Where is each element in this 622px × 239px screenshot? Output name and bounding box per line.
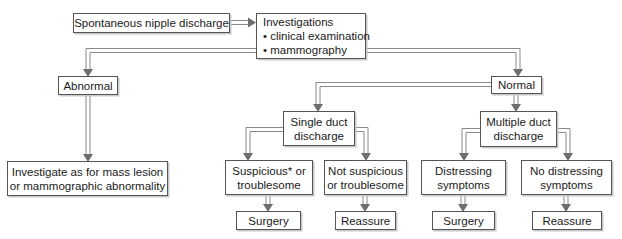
node-label-line-1: Not suspicious bbox=[328, 164, 403, 178]
node-surgery-multiple-duct: Surgery bbox=[432, 211, 495, 230]
node-suspicious-or-troublesome: Suspicious* or troublesome bbox=[225, 160, 313, 195]
node-no-distressing-symptoms: No distressing symptoms bbox=[521, 160, 612, 195]
node-label-line-1: Investigate as for mass lesion bbox=[12, 165, 164, 179]
node-not-suspicious: Not suspicious or troublesome bbox=[324, 160, 407, 195]
node-surgery-single-duct: Surgery bbox=[236, 211, 301, 230]
node-single-duct-discharge: Single duct discharge bbox=[283, 111, 355, 146]
node-label: Reassure bbox=[542, 214, 591, 228]
node-label-line-2: or troublesome bbox=[327, 178, 404, 192]
node-label: Surgery bbox=[248, 214, 288, 228]
node-label: Abnormal bbox=[63, 79, 112, 93]
node-investigate-mass-lesion: Investigate as for mass lesion or mammog… bbox=[7, 161, 168, 196]
node-label-line-1: Suspicious* or bbox=[232, 164, 306, 178]
node-abnormal: Abnormal bbox=[58, 76, 118, 95]
node-label: Reassure bbox=[341, 214, 390, 228]
node-investigations: Investigations • clinical examination • … bbox=[256, 13, 366, 59]
node-reassure-single-duct: Reassure bbox=[335, 211, 396, 230]
node-distressing-symptoms: Distressing symptoms bbox=[421, 160, 506, 195]
node-reassure-multiple-duct: Reassure bbox=[532, 211, 602, 230]
node-label-line-2: discharge bbox=[294, 129, 344, 143]
node-label-line-1: Single duct bbox=[291, 115, 348, 129]
node-label: Investigations bbox=[263, 15, 333, 29]
node-label-line-2: symptoms bbox=[540, 178, 592, 192]
node-label-line-1: No distressing bbox=[530, 164, 603, 178]
node-bullet-mammography: • mammography bbox=[263, 43, 347, 57]
node-label: Spontaneous nipple discharge bbox=[74, 16, 229, 30]
nipple-discharge-flowchart: Spontaneous nipple discharge Investigati… bbox=[0, 0, 622, 239]
node-label-line-2: troublesome bbox=[237, 178, 300, 192]
node-label-line-1: Distressing bbox=[435, 164, 492, 178]
node-label: Normal bbox=[498, 78, 535, 92]
node-multiple-duct-discharge: Multiple duct discharge bbox=[480, 111, 557, 147]
node-label-line-2: discharge bbox=[494, 129, 544, 143]
node-label-line-1: Multiple duct bbox=[486, 115, 551, 129]
node-spontaneous-nipple-discharge: Spontaneous nipple discharge bbox=[73, 13, 230, 33]
node-normal: Normal bbox=[491, 76, 542, 94]
node-label: Surgery bbox=[443, 214, 483, 228]
node-bullet-clinical-examination: • clinical examination bbox=[263, 29, 370, 43]
node-label-line-2: symptoms bbox=[437, 178, 489, 192]
node-label-line-2: or mammographic abnormality bbox=[10, 179, 165, 193]
